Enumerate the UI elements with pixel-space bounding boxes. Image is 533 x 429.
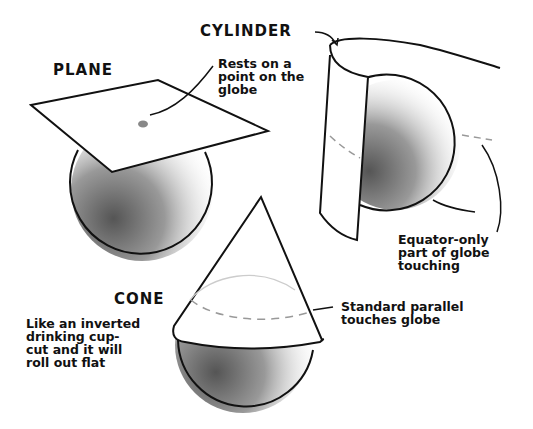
cylinder-title: CYLINDER: [200, 24, 292, 39]
cone-note-right: Standard parallel touches globe: [341, 300, 463, 326]
cone-note-left: Like an inverted drinking cup- cut and i…: [26, 317, 140, 369]
cone-leader-line: [313, 307, 333, 310]
plane-title: PLANE: [53, 63, 113, 78]
cylinder-note: Equator-only part of globe touching: [398, 233, 490, 272]
cylinder-leader-line: [482, 145, 501, 232]
plane-note: Rests on a point on the globe: [218, 57, 304, 96]
contact-point: [138, 121, 148, 128]
cone-title: CONE: [114, 292, 165, 307]
